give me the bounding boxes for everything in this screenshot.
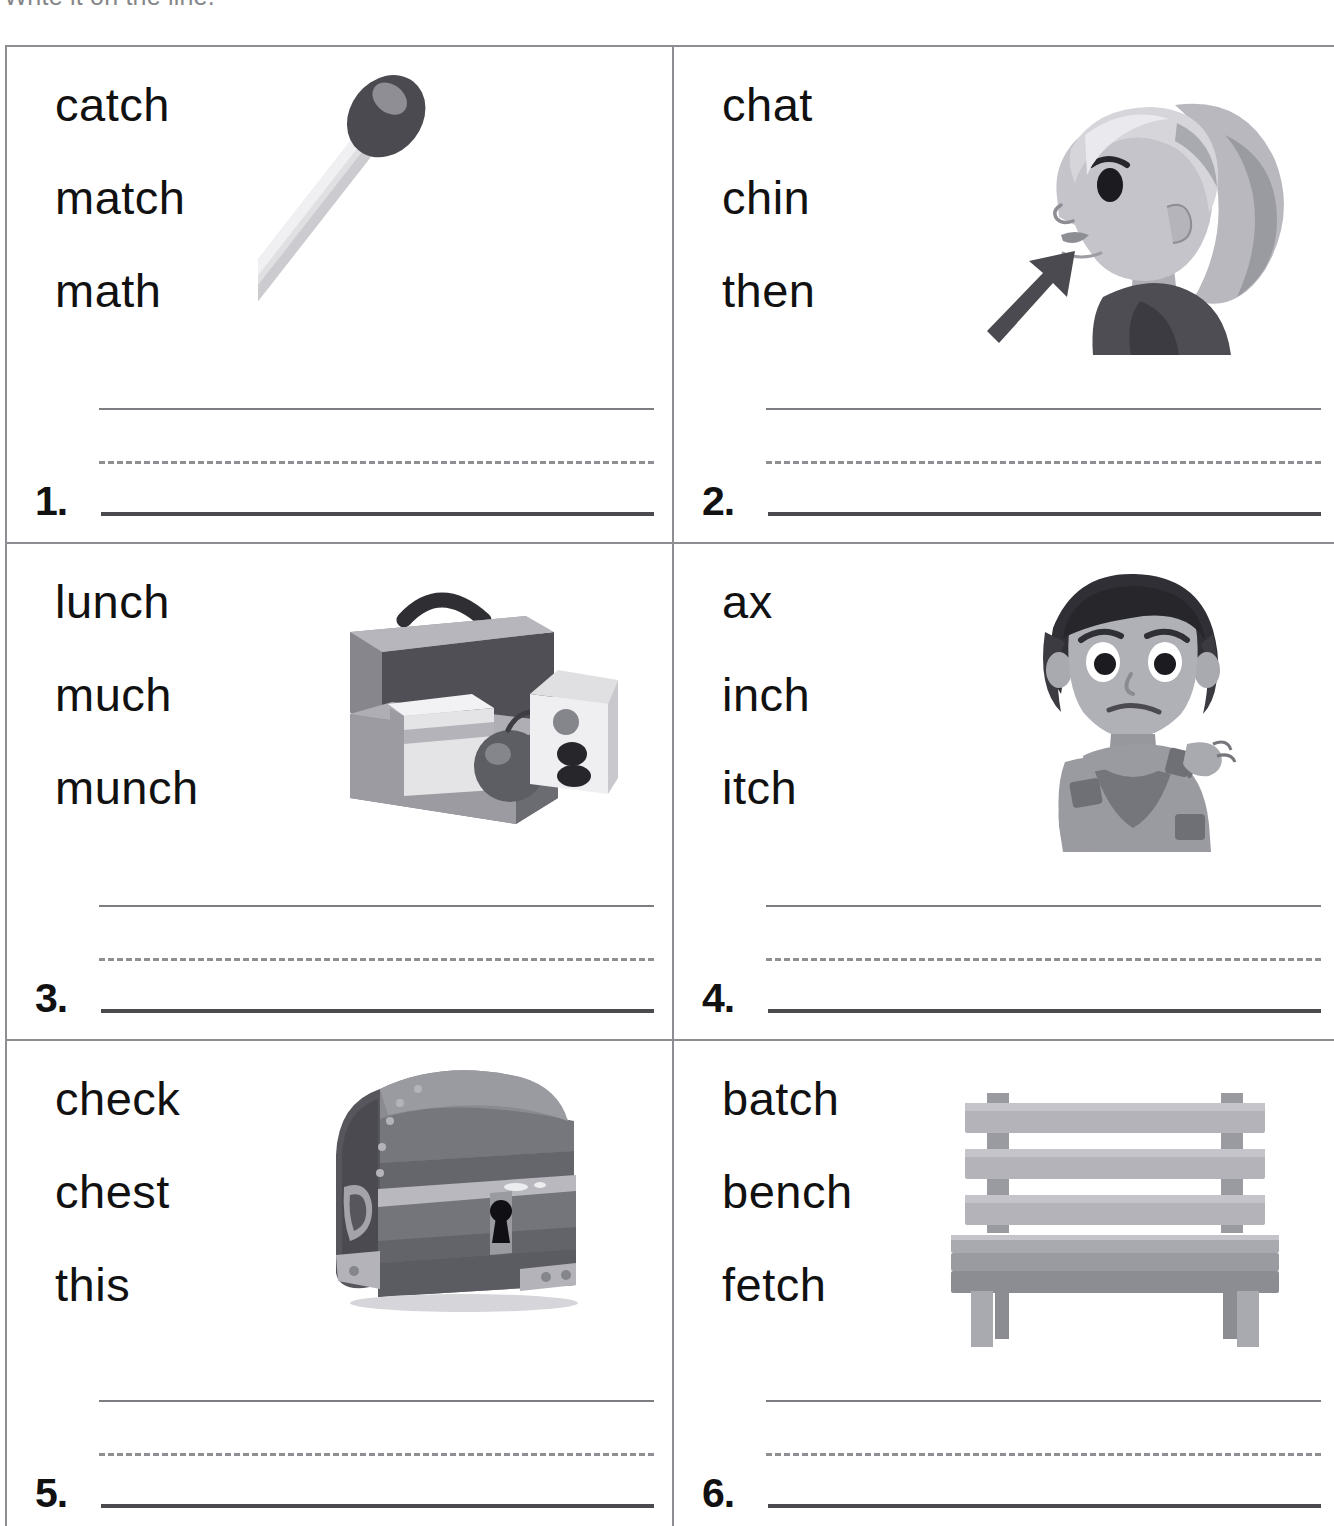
- worksheet-cell-5: check chest this: [7, 1041, 674, 1526]
- match-icon: [258, 65, 658, 355]
- lunchbox-icon: [258, 562, 658, 852]
- worksheet-grid: catch match math 1.: [5, 45, 1334, 1526]
- word-option[interactable]: this: [55, 1261, 285, 1308]
- item-number: 3.: [35, 978, 99, 1019]
- item-number: 2.: [702, 481, 766, 522]
- word-option[interactable]: itch: [722, 764, 952, 811]
- answer-write-line[interactable]: [101, 1009, 654, 1013]
- guide-line-dashed: [99, 461, 654, 464]
- worksheet-cell-1: catch match math 1.: [7, 47, 674, 544]
- word-option[interactable]: catch: [55, 81, 285, 128]
- bench-icon: [925, 1059, 1325, 1349]
- worksheet-row: check chest this: [7, 1041, 1334, 1526]
- word-option[interactable]: much: [55, 671, 285, 718]
- guide-line-top: [99, 905, 654, 907]
- word-option[interactable]: check: [55, 1075, 285, 1122]
- guide-line-dashed: [766, 958, 1321, 961]
- guide-line-dashed: [99, 958, 654, 961]
- item-number: 1.: [35, 481, 99, 522]
- word-option[interactable]: chest: [55, 1168, 285, 1215]
- word-option[interactable]: inch: [722, 671, 952, 718]
- word-list-3: lunch much munch: [55, 578, 285, 811]
- guide-line-top: [766, 408, 1321, 410]
- guide-line-dashed: [99, 1453, 654, 1456]
- word-option[interactable]: chin: [722, 174, 952, 221]
- answer-row-6: 6.: [702, 1468, 1321, 1514]
- word-option[interactable]: munch: [55, 764, 285, 811]
- word-option[interactable]: ax: [722, 578, 952, 625]
- girl-profile-chin-icon: [925, 65, 1325, 355]
- item-number: 6.: [702, 1473, 766, 1514]
- worksheet-row: catch match math 1.: [7, 47, 1334, 544]
- worksheet-row: lunch much munch: [7, 544, 1334, 1041]
- worksheet-cell-3: lunch much munch: [7, 544, 674, 1041]
- word-list-2: chat chin then: [722, 81, 952, 314]
- answer-write-line[interactable]: [101, 512, 654, 516]
- word-option[interactable]: match: [55, 174, 285, 221]
- instruction-strip: Write it on the line.: [0, 0, 1334, 12]
- item-number: 4.: [702, 978, 766, 1019]
- word-list-4: ax inch itch: [722, 578, 952, 811]
- item-number: 5.: [35, 1473, 99, 1514]
- guide-line-top: [766, 905, 1321, 907]
- answer-write-line[interactable]: [101, 1504, 654, 1508]
- word-option[interactable]: batch: [722, 1075, 952, 1122]
- answer-write-line[interactable]: [768, 1504, 1321, 1508]
- guide-line-top: [766, 1400, 1321, 1402]
- worksheet-cell-4: ax inch itch: [674, 544, 1334, 1041]
- guide-line-dashed: [766, 461, 1321, 464]
- guide-line-dashed: [766, 1453, 1321, 1456]
- word-option[interactable]: bench: [722, 1168, 952, 1215]
- girl-scratching-icon: [925, 562, 1325, 852]
- treasure-chest-icon: [258, 1059, 658, 1349]
- answer-row-3: 3.: [35, 973, 654, 1019]
- answer-row-5: 5.: [35, 1468, 654, 1514]
- word-option[interactable]: chat: [722, 81, 952, 128]
- word-list-5: check chest this: [55, 1075, 285, 1308]
- guide-line-top: [99, 408, 654, 410]
- instruction-text: Write it on the line.: [4, 0, 215, 11]
- answer-write-line[interactable]: [768, 1009, 1321, 1013]
- word-option[interactable]: fetch: [722, 1261, 952, 1308]
- word-list-6: batch bench fetch: [722, 1075, 952, 1308]
- answer-row-2: 2.: [702, 476, 1321, 522]
- answer-row-4: 4.: [702, 973, 1321, 1019]
- answer-write-line[interactable]: [768, 512, 1321, 516]
- worksheet-cell-6: batch bench fetch: [674, 1041, 1334, 1526]
- word-option[interactable]: then: [722, 267, 952, 314]
- word-list-1: catch match math: [55, 81, 285, 314]
- word-option[interactable]: lunch: [55, 578, 285, 625]
- worksheet-cell-2: chat chin then: [674, 47, 1334, 544]
- answer-row-1: 1.: [35, 476, 654, 522]
- guide-line-top: [99, 1400, 654, 1402]
- word-option[interactable]: math: [55, 267, 285, 314]
